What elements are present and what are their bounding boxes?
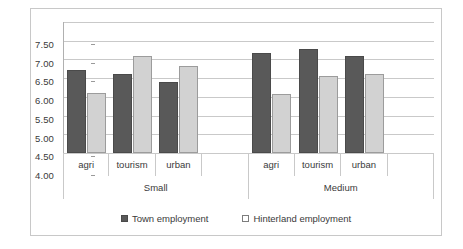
category-label: tourism (295, 153, 341, 176)
category-label: agri (249, 153, 295, 176)
bar (87, 93, 106, 153)
y-axis-tick-label: 5.00 (35, 132, 54, 143)
category-label: urban (341, 153, 387, 176)
y-axis-tick-label: 6.00 (35, 95, 54, 106)
bar (179, 66, 198, 153)
legend-label: Hinterland employment (253, 213, 351, 224)
legend-item[interactable]: Hinterland employment (242, 213, 351, 224)
bar (67, 70, 86, 153)
group-label: Medium (249, 176, 435, 199)
bar (272, 94, 291, 153)
category-axis: agritourismurbanagritourismurban SmallMe… (63, 153, 434, 199)
bar-chart: 7.507.006.506.005.505.004.504.00 agritou… (0, 0, 463, 249)
bar (299, 49, 318, 153)
category-label (202, 153, 248, 176)
category-label: urban (156, 153, 202, 176)
category-label (388, 153, 434, 176)
bar (365, 74, 384, 153)
y-axis-tick-label: 7.50 (35, 39, 54, 50)
bar (113, 74, 132, 153)
y-axis-tick-label: 6.50 (35, 76, 54, 87)
bar (252, 53, 271, 153)
bar (319, 76, 338, 153)
category-label-row: agritourismurbanagritourismurban (63, 153, 434, 176)
category-label: tourism (109, 153, 155, 176)
legend-item[interactable]: Town employment (121, 213, 209, 224)
legend-swatch-hinterland-icon (242, 215, 249, 222)
bar (159, 82, 178, 153)
y-axis-labels: 7.507.006.506.005.505.004.504.00 (30, 22, 60, 153)
bar (345, 56, 364, 153)
chart-legend: Town employmentHinterland employment (30, 206, 442, 230)
bar (133, 56, 152, 153)
category-label: agri (63, 153, 109, 176)
y-axis-tick-label: 4.00 (35, 170, 54, 181)
y-axis-tick-label: 5.50 (35, 113, 54, 124)
legend-label: Town employment (132, 213, 209, 224)
group-label-row: SmallMedium (63, 176, 434, 199)
y-axis-tick-label: 7.00 (35, 57, 54, 68)
bars-layer (63, 22, 434, 153)
legend-swatch-town-icon (121, 215, 128, 222)
y-axis-tick-label: 4.50 (35, 151, 54, 162)
group-label: Small (63, 176, 249, 199)
plot-area (63, 22, 434, 153)
